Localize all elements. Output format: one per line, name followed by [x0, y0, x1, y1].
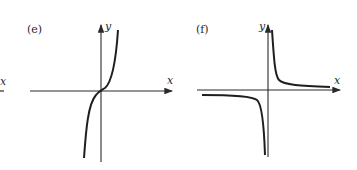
panel-label: (e)	[27, 23, 42, 36]
cropped-left-panel: x	[0, 75, 7, 91]
hyperbola-upper-branch	[272, 30, 330, 87]
x-axis-label: x	[0, 75, 7, 88]
y-axis-label: y	[258, 20, 266, 33]
diagram-canvas: x (e) y x (f) y x	[0, 0, 357, 170]
panel-e: (e) y x	[27, 20, 174, 162]
panel-label: (f)	[196, 23, 209, 36]
hyperbola-lower-branch	[202, 95, 265, 155]
x-axis-label: x	[167, 74, 174, 87]
x-axis-label: x	[334, 74, 341, 87]
panel-f: (f) y x	[196, 20, 341, 157]
y-axis-label: y	[104, 20, 112, 33]
